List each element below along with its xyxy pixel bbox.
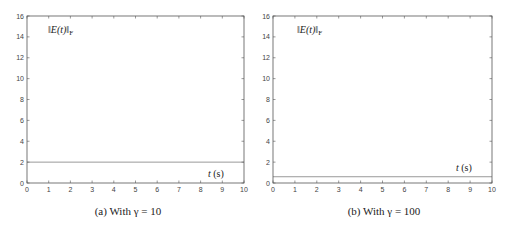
x-tick-label: 4 bbox=[359, 186, 363, 193]
caption-a: (a) With γ = 10 bbox=[0, 205, 256, 217]
y-tick-label: 4 bbox=[266, 138, 270, 145]
y-tick-label: 12 bbox=[262, 54, 270, 61]
time-axis-annotation: t (s) bbox=[208, 168, 224, 180]
x-tick-label: 1 bbox=[293, 186, 297, 193]
norm-annotation: ‖E(t)‖F bbox=[48, 24, 73, 37]
y-tick-label: 8 bbox=[20, 96, 24, 103]
x-tick-label: 10 bbox=[488, 186, 496, 193]
plot-area-a: 0123456789100246810121416‖E(t)‖Ft (s) bbox=[0, 0, 256, 200]
x-tick-label: 7 bbox=[424, 186, 428, 193]
x-tick-label: 4 bbox=[112, 186, 116, 193]
y-tick-label: 10 bbox=[262, 75, 270, 82]
y-tick-label: 2 bbox=[20, 159, 24, 166]
y-tick-label: 14 bbox=[16, 33, 24, 40]
axes-frame bbox=[273, 16, 492, 183]
y-tick-label: 8 bbox=[266, 96, 270, 103]
x-tick-label: 10 bbox=[240, 186, 248, 193]
chart-panel-b: 0123456789100246810121416‖E(t)‖Ft (s) (b… bbox=[256, 0, 512, 237]
time-axis-annotation: t (s) bbox=[456, 162, 472, 174]
x-tick-label: 3 bbox=[90, 186, 94, 193]
x-tick-label: 8 bbox=[199, 186, 203, 193]
y-tick-label: 4 bbox=[20, 138, 24, 145]
caption-b: (b) With γ = 100 bbox=[256, 205, 512, 217]
y-tick-label: 0 bbox=[266, 180, 270, 187]
y-tick-label: 16 bbox=[16, 13, 24, 20]
norm-annotation: ‖E(t)‖F bbox=[297, 24, 322, 37]
y-tick-label: 16 bbox=[262, 13, 270, 20]
y-tick-label: 6 bbox=[266, 117, 270, 124]
chart-panel-a: 0123456789100246810121416‖E(t)‖Ft (s) (a… bbox=[0, 0, 256, 237]
axes-frame bbox=[27, 16, 244, 183]
y-tick-label: 14 bbox=[262, 33, 270, 40]
y-tick-label: 2 bbox=[266, 159, 270, 166]
x-tick-label: 5 bbox=[134, 186, 138, 193]
x-tick-label: 7 bbox=[177, 186, 181, 193]
y-tick-label: 12 bbox=[16, 54, 24, 61]
y-tick-label: 0 bbox=[20, 180, 24, 187]
x-tick-label: 9 bbox=[468, 186, 472, 193]
x-tick-label: 3 bbox=[337, 186, 341, 193]
x-tick-label: 6 bbox=[155, 186, 159, 193]
x-tick-label: 2 bbox=[315, 186, 319, 193]
x-tick-label: 9 bbox=[220, 186, 224, 193]
plot-area-b: 0123456789100246810121416‖E(t)‖Ft (s) bbox=[256, 0, 513, 200]
x-tick-label: 2 bbox=[68, 186, 72, 193]
x-tick-label: 0 bbox=[271, 186, 275, 193]
x-tick-label: 8 bbox=[446, 186, 450, 193]
y-tick-label: 10 bbox=[16, 75, 24, 82]
x-tick-label: 0 bbox=[25, 186, 29, 193]
x-tick-label: 6 bbox=[402, 186, 406, 193]
y-tick-label: 6 bbox=[20, 117, 24, 124]
x-tick-label: 1 bbox=[47, 186, 51, 193]
x-tick-label: 5 bbox=[381, 186, 385, 193]
